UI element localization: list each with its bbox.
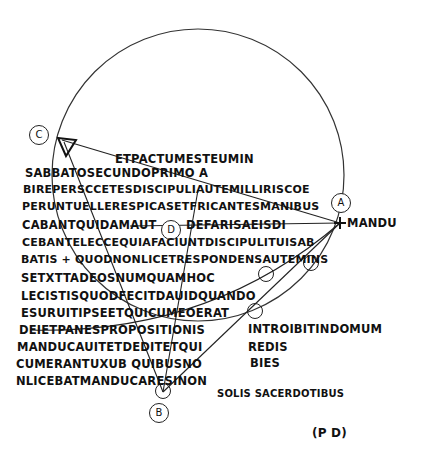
text-line: CUMERANTUXUB QUIBUSNO: [16, 357, 202, 371]
text-line: BATIS + QUODNONLICETRESPONDENSAUTEMINS: [21, 253, 328, 266]
text-line: INTROIBITINDOMUM: [248, 322, 382, 336]
intersection-circle-2: [258, 266, 274, 282]
text-line: ESURUITIPSEETQUICUMEOERAT: [21, 306, 229, 320]
text-line: LECISTISQUODFECITDAUIDQUANDO: [21, 289, 256, 303]
text-line: CABANTQUIDAMAUT: [22, 218, 157, 232]
text-line: DEFARISAEISDI: [186, 218, 286, 232]
text-line: SETXTTADEOSNUMQUAMHOC: [21, 271, 215, 285]
triangle-mark: [58, 138, 76, 156]
text-line: NLICEBATMANDUCARESINON: [16, 374, 207, 388]
text-line: MANDUCAUITETDEDITETQUI: [17, 340, 203, 354]
text-line: ETPACTUMESTEUMIN: [115, 152, 254, 166]
monogram: (P D): [312, 426, 347, 440]
text-line: SOLIS SACERDOTIBUS: [217, 388, 344, 399]
text-line: SABBATOSECUNDOPRIMO A: [25, 166, 208, 180]
text-line: MANDU: [347, 216, 397, 230]
text-line: PERUNTUELLERESPICASETFRICANTESMANIBUS: [22, 200, 319, 213]
intersection-circle-3: [247, 303, 263, 319]
text-line: BIES: [250, 356, 280, 370]
text-line: CEBANTELECCEQUIAFACIUNTDISCIPULITUISAB: [22, 236, 315, 249]
label-a: A: [331, 193, 351, 213]
label-b: B: [149, 403, 169, 423]
text-line: REDIS: [248, 340, 288, 354]
label-c: C: [29, 125, 49, 145]
text-line: BIREPERSCCETESDISCIPULIAUTEMILLIRISCOE: [23, 183, 310, 196]
text-line: DEIETPANESPROPOSITIONIS: [19, 323, 205, 337]
